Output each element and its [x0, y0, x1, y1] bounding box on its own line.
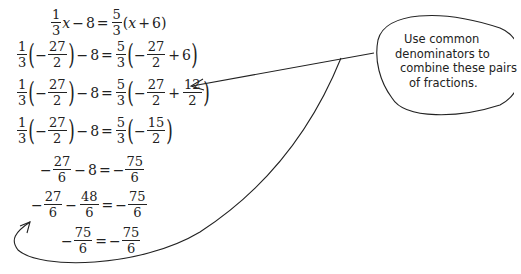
bubble-line: denominators to	[395, 47, 521, 62]
arrow-to-row-3	[192, 53, 374, 86]
bubble-line: combine these pairs	[400, 61, 521, 76]
bubble-text: Use common denominators to combine these…	[392, 32, 521, 90]
bubble-line: of fractions.	[409, 76, 521, 91]
equation-row-4: 13 (− 272 )−8= 53 (− 152 )	[16, 116, 173, 145]
equation-row-5: − 276 −8=− 756	[40, 155, 145, 184]
equation-row-7: − 756 =− 756	[61, 226, 141, 255]
bubble-line: Use common	[404, 32, 521, 47]
equation-row-3: 13 (− 272 )−8= 53 (− 272 + 122 )	[16, 78, 210, 107]
equation-row-6: − 276 − 486 =− 756	[31, 190, 148, 219]
equation-row-1: 13 x−8= 53 (x+6)	[50, 8, 166, 37]
equation-row-2: 13 (− 272 )−8= 53 (− 272 +6)	[16, 40, 198, 69]
